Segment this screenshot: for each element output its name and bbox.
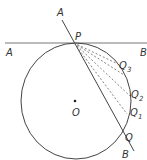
label-B-tangent: B: [140, 47, 147, 58]
label-Q2: Q2: [131, 89, 144, 103]
label-A-secant: A: [56, 7, 64, 18]
label-Q1: Q1: [130, 107, 142, 121]
chord-PQ1: [74, 43, 127, 114]
label-P: P: [75, 31, 82, 42]
label-Q: Q: [125, 132, 133, 143]
center-point-O: [74, 100, 77, 103]
label-O: O: [72, 107, 80, 118]
label-A-tangent: A: [5, 47, 13, 58]
label-Q3: Q3: [119, 60, 131, 74]
diagram-canvas: A A B P O Q B Q1 Q2 Q3: [0, 0, 147, 160]
label-B-secant: B: [122, 149, 129, 160]
secant-line-AB: [62, 20, 134, 151]
